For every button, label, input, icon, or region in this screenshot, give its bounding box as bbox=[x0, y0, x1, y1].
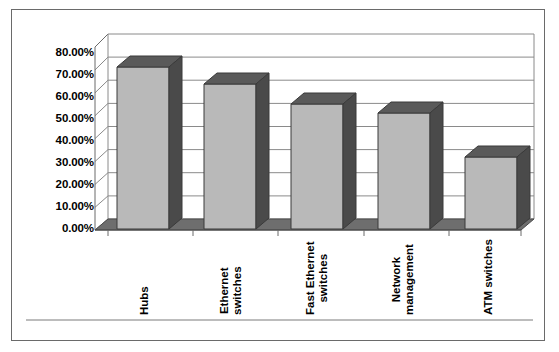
x-axis-ticks bbox=[108, 230, 521, 236]
bar-hubs bbox=[117, 56, 182, 229]
x-tick-label-ethernet-switches: Ethernet switches bbox=[218, 266, 243, 315]
chart-frame: 80.00% 70.00% 60.00% 50.00% 40.00% 30.00… bbox=[11, 9, 545, 341]
bar-fast-ethernet-switches bbox=[291, 93, 356, 229]
x-tick-label-fast-ethernet-switches: Fast Ethernet switches bbox=[304, 242, 329, 316]
x-tick-label-hubs: Hubs bbox=[138, 286, 151, 315]
chart-plot-area: 80.00% 70.00% 60.00% 50.00% 40.00% 30.00… bbox=[12, 10, 546, 342]
x-tick-label-network-management: Network management bbox=[390, 244, 415, 315]
bar-ethernet-switches bbox=[204, 73, 269, 229]
bar-network-management bbox=[378, 102, 443, 229]
chart-graphics bbox=[12, 10, 546, 342]
x-tick-label-atm-switches: ATM switches bbox=[482, 239, 495, 315]
bar-atm-switches bbox=[465, 146, 530, 229]
